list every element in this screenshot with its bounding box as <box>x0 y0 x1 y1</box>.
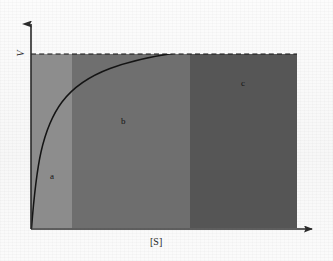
x-axis-label: [S] <box>150 236 162 247</box>
region-label-c: c <box>241 79 245 88</box>
region-label-a: a <box>50 172 54 181</box>
plot-area <box>0 0 333 261</box>
figure-canvas: V [S] a b c <box>0 0 333 261</box>
region-label-b: b <box>121 117 126 126</box>
y-axis-label: V <box>15 47 26 61</box>
